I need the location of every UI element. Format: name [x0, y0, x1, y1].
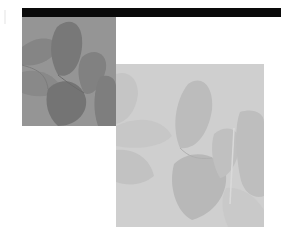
header-bar	[22, 8, 281, 17]
petals-photo-dark	[22, 17, 116, 126]
petals-photo-light	[116, 64, 264, 227]
petals-photo-icon	[116, 64, 264, 227]
faint-artifact	[4, 10, 6, 24]
petals-photo-icon	[22, 17, 116, 126]
